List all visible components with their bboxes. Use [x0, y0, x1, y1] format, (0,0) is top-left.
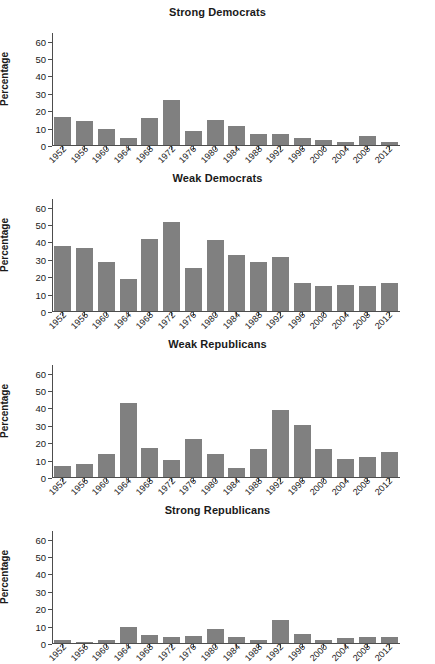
bar	[141, 239, 158, 311]
bar	[228, 255, 245, 311]
bar-slot	[335, 531, 357, 643]
bar	[76, 248, 93, 311]
y-tick-label: 20	[35, 106, 46, 117]
bar-slot	[96, 531, 118, 643]
bar	[359, 136, 376, 145]
bar	[381, 283, 398, 311]
bar	[294, 283, 311, 311]
bar	[141, 118, 158, 145]
bar-slot	[139, 365, 161, 477]
bar-slot	[291, 531, 313, 643]
bar	[315, 140, 332, 145]
bar-slot	[139, 33, 161, 145]
bar-slot	[248, 199, 270, 311]
bar-slot	[291, 365, 313, 477]
bar	[185, 268, 202, 311]
bar	[98, 640, 115, 643]
bar-slot	[248, 33, 270, 145]
bar	[207, 240, 224, 311]
bar-slot	[313, 531, 335, 643]
y-tick-label: 40	[35, 71, 46, 82]
bar-slot	[52, 33, 74, 145]
bar-slot	[248, 531, 270, 643]
y-tick-label: 10	[35, 455, 46, 466]
bar-slot	[96, 365, 118, 477]
chart-panel: Strong DemocratsPercentage01020304050601…	[0, 0, 435, 166]
bar	[207, 629, 224, 643]
y-tick-label: 30	[35, 254, 46, 265]
bar-slot	[204, 33, 226, 145]
bar	[337, 285, 354, 311]
bar-slot	[52, 199, 74, 311]
bar	[359, 286, 376, 311]
bar-slot	[270, 365, 292, 477]
y-tick-label: 10	[35, 123, 46, 134]
bar	[272, 410, 289, 477]
bar-slot	[335, 33, 357, 145]
bar	[315, 449, 332, 477]
y-tick-label: 0	[41, 473, 46, 484]
bar-slot	[74, 365, 96, 477]
bar	[54, 246, 71, 311]
y-tick-label: 10	[35, 621, 46, 632]
bar-slot	[74, 199, 96, 311]
bar	[294, 138, 311, 145]
bar	[228, 637, 245, 643]
bar-slot	[378, 33, 400, 145]
bar-slot	[313, 365, 335, 477]
bar-slot	[270, 199, 292, 311]
chart-panel: Weak RepublicansPercentage01020304050601…	[0, 332, 435, 498]
y-tick-label: 20	[35, 438, 46, 449]
bar	[272, 257, 289, 311]
y-tick-label: 60	[35, 534, 46, 545]
chart-title: Strong Democrats	[0, 6, 435, 18]
y-tick-label: 60	[35, 368, 46, 379]
bar-slot	[139, 199, 161, 311]
bar-slot	[357, 531, 379, 643]
bar	[98, 129, 115, 145]
bar	[163, 100, 180, 145]
y-axis-label: Percentage	[0, 529, 13, 625]
bar-series	[52, 365, 400, 477]
bar	[207, 454, 224, 477]
bar	[98, 262, 115, 311]
bar	[272, 134, 289, 145]
bar-slot	[335, 365, 357, 477]
bar-slot	[161, 199, 183, 311]
x-label-slot: 2012	[378, 649, 400, 664]
bar	[250, 134, 267, 145]
bar	[381, 142, 398, 145]
plot-area: 0102030405060195219561960196419681972197…	[52, 33, 400, 146]
bar-slot	[226, 199, 248, 311]
y-tick-label: 40	[35, 403, 46, 414]
bar	[228, 468, 245, 477]
bar	[120, 403, 137, 477]
bar	[54, 640, 71, 643]
bar-slot	[117, 199, 139, 311]
bar-slot	[117, 33, 139, 145]
bar-slot	[161, 365, 183, 477]
y-tick-label: 40	[35, 237, 46, 248]
bar-series	[52, 531, 400, 643]
y-tick-label: 20	[35, 272, 46, 283]
bar-slot	[139, 531, 161, 643]
chart-title: Strong Republicans	[0, 504, 435, 516]
bar-slot	[291, 33, 313, 145]
y-tick-label: 30	[35, 88, 46, 99]
bar	[54, 466, 71, 477]
bar	[207, 120, 224, 145]
bar	[120, 627, 137, 643]
y-tick-label: 40	[35, 569, 46, 580]
y-tick-label: 0	[41, 307, 46, 318]
bar	[185, 439, 202, 477]
bar	[381, 637, 398, 643]
x-tick-label: 1952	[47, 476, 68, 497]
bar	[272, 620, 289, 643]
bar-slot	[378, 531, 400, 643]
y-tick-label: 60	[35, 36, 46, 47]
plot-area: 0102030405060195219561960196419681972197…	[52, 365, 400, 478]
bar-slot	[161, 33, 183, 145]
y-tick-label: 50	[35, 220, 46, 231]
y-tick-label: 20	[35, 604, 46, 615]
bar-slot	[204, 199, 226, 311]
